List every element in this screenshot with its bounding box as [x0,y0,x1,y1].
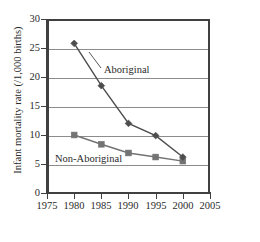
data-point-non-aboriginal-1990 [126,150,132,156]
data-point-non-aboriginal-1995 [153,154,159,160]
series-label-non-aboriginal: Non-Aboriginal [54,153,123,165]
data-point-aboriginal-1980 [71,40,78,47]
data-point-non-aboriginal-1980 [71,132,77,138]
chart-figure: Infant mortality rate (/1,000 births) 30… [0,0,260,242]
series-label-aboriginal: Aboriginal [103,64,151,76]
series-aboriginal [71,40,186,160]
series-layer [0,0,260,242]
data-point-non-aboriginal-1985 [98,141,104,147]
